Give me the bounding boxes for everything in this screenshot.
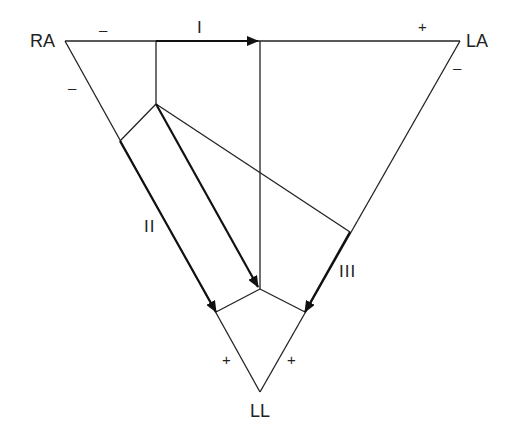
lead-1-negative-sign: – [99,22,107,37]
lead-3-positive-sign: + [287,352,296,367]
mean-axis-vector [156,104,258,287]
lead-3-axis [260,41,460,392]
lead-3-label: III [339,263,356,280]
vertex-ra-label: RA [30,32,55,50]
lead-1-positive-sign: + [418,19,427,34]
einthoven-triangle-diagram [0,0,508,430]
lead-2-label: II [144,218,155,235]
vertex-ll-label: LL [250,402,270,420]
lead-2-negative-sign: – [68,80,76,95]
vertex-la-label: LA [466,32,488,50]
lead-2-positive-sign: + [222,352,231,367]
lead-3-negative-sign: – [453,60,461,75]
lead-1-label: I [197,19,203,36]
lead-2-vector [120,141,216,312]
